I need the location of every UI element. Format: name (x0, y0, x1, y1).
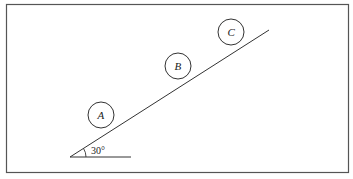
ball-a: A (88, 102, 114, 128)
ball-b: B (165, 53, 191, 79)
incline-surface (70, 30, 269, 157)
incline-diagram: 30° A B C (0, 0, 353, 179)
ball-b-label: B (175, 60, 182, 72)
ball-a-label: A (97, 109, 105, 121)
angle-label: 30° (91, 145, 105, 156)
angle-arc (84, 148, 87, 157)
ball-c: C (218, 19, 244, 45)
ball-c-label: C (228, 26, 236, 38)
